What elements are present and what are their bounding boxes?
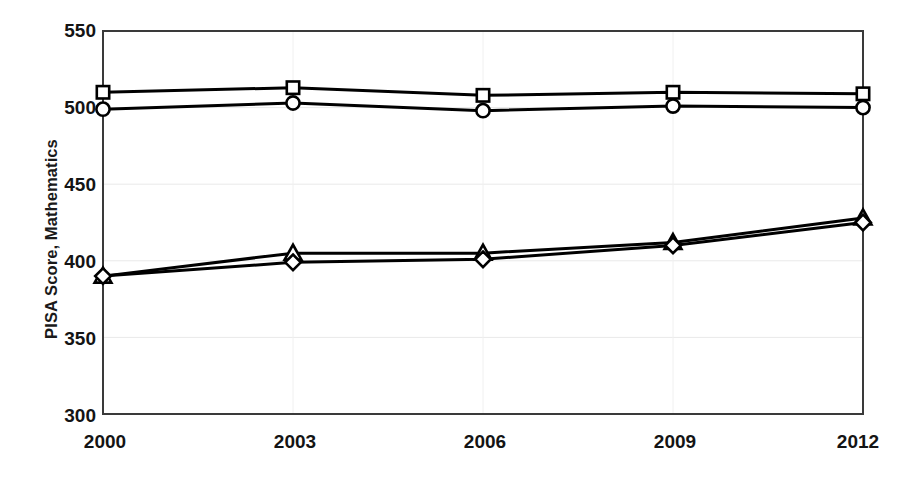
plot-area	[0, 0, 901, 478]
pisa-mathematics-line-chart: PISA Score, Mathematics 550 500 450 400 …	[0, 0, 901, 478]
series-square-marker-2003	[287, 81, 299, 93]
series-square-marker-2000	[97, 86, 109, 98]
series-circle-marker-2012	[856, 101, 869, 114]
series-circle-marker-2009	[666, 99, 679, 112]
series-circle-marker-2000	[96, 103, 109, 116]
series-square-marker-2006	[477, 89, 489, 101]
series-diamond-marker-2009	[665, 238, 681, 254]
series-square-marker-2009	[667, 86, 679, 98]
series-square-marker-2012	[857, 88, 869, 100]
series-circle-marker-2003	[286, 96, 299, 109]
series-circle-marker-2006	[476, 104, 489, 117]
